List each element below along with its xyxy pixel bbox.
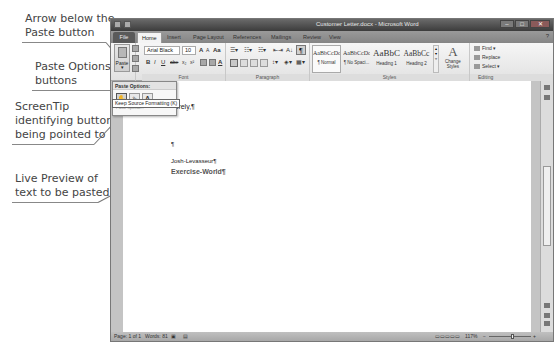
zoom-out-button[interactable]: − xyxy=(483,332,486,341)
align-right-button[interactable] xyxy=(250,59,258,67)
scroll-down-button[interactable] xyxy=(544,303,550,308)
vertical-scrollbar[interactable] xyxy=(540,81,553,334)
copy-icon[interactable] xyxy=(132,55,139,62)
page-count[interactable]: Page: 1 of 1 xyxy=(114,332,141,341)
font-color-button[interactable]: A xyxy=(218,58,222,67)
style-normal[interactable]: AaBbCcDc ¶ Normal xyxy=(312,45,341,73)
change-styles-icon: A xyxy=(442,45,464,59)
callout-text: text to be pasted xyxy=(15,186,115,200)
paste-arrow-button[interactable]: ▾ xyxy=(115,64,129,70)
line-spacing-button[interactable]: ↕▾ xyxy=(272,58,278,67)
word-logo-icon[interactable] xyxy=(114,21,121,28)
callout-underline xyxy=(22,42,106,43)
indent-buttons[interactable]: ⇤⇥ xyxy=(273,46,283,55)
document-area: cerely,¶ ¶ Josh-Levasseur¶ Exercise-Worl… xyxy=(111,81,542,334)
editing-group-label: Editing xyxy=(470,74,554,81)
minimize-button[interactable]: – xyxy=(500,20,514,28)
close-button[interactable]: ✕ xyxy=(530,20,550,28)
justify-button[interactable] xyxy=(260,59,268,67)
quick-access-toolbar xyxy=(114,21,131,28)
format-painter-icon[interactable] xyxy=(132,65,139,72)
subscript-button[interactable]: x₂ xyxy=(182,58,186,67)
figure: Arrow below the Paste button Paste Optio… xyxy=(0,0,554,349)
style-name: ¶ No Spaci... xyxy=(343,60,370,65)
styles-gallery-scroll[interactable]: ▴▾▿ xyxy=(433,45,439,73)
show-hide-button[interactable]: ¶ xyxy=(296,45,306,55)
style-heading-1[interactable]: AaBbC: Heading 1 xyxy=(372,45,401,73)
shrink-font-button[interactable]: A xyxy=(206,46,209,55)
scroll-up-button[interactable] xyxy=(544,95,550,100)
replace-label: Replace xyxy=(482,54,500,60)
tab-file[interactable]: File xyxy=(113,32,135,43)
shading-button[interactable]: ◈▾ xyxy=(284,58,292,67)
tab-page-layout[interactable]: Page Layout xyxy=(189,32,228,43)
styles-group-label: Styles xyxy=(310,74,469,81)
change-case-button[interactable]: Aa xyxy=(213,46,221,55)
style-name: ¶ Normal xyxy=(313,60,340,65)
clipboard-group: Paste ▾ xyxy=(111,43,136,81)
view-buttons[interactable]: ▭▭▭▭▭ xyxy=(435,332,460,341)
word-count[interactable]: Words: 81 xyxy=(145,332,168,341)
paste-button[interactable]: Paste ▾ xyxy=(114,44,130,72)
select-icon xyxy=(474,64,480,69)
title-bar: Customer Letter.docx - Microsoft Word – … xyxy=(111,19,553,31)
styles-group: AaBbCcDc ¶ Normal AaBbCcDc ¶ No Spaci...… xyxy=(310,43,470,81)
replace-icon xyxy=(474,55,480,60)
sort-button[interactable]: A↓ xyxy=(286,46,293,55)
tab-view[interactable]: View xyxy=(325,32,345,43)
change-styles-button[interactable]: A Change Styles xyxy=(442,45,464,73)
select-button[interactable]: Select ▾ xyxy=(474,63,500,69)
callout-text: buttons xyxy=(35,74,115,88)
multilevel-list-button[interactable]: ☵▾ xyxy=(258,46,266,55)
zoom-slider-knob[interactable] xyxy=(511,334,514,339)
zoom-level[interactable]: 117% xyxy=(465,332,477,341)
tab-insert[interactable]: Insert xyxy=(163,32,185,43)
align-center-button[interactable] xyxy=(240,59,248,67)
change-styles-label: Change Styles xyxy=(442,59,464,69)
clipboard-icon xyxy=(118,47,127,58)
doc-line-name: Josh-Levasseur¶ xyxy=(171,158,217,164)
tab-home[interactable]: Home xyxy=(137,32,162,43)
doc-line-pilcrow: ¶ xyxy=(171,141,174,147)
highlight-icon[interactable] xyxy=(209,59,216,66)
next-page-button[interactable] xyxy=(544,321,550,326)
prev-page-button[interactable] xyxy=(544,313,550,318)
style-no-spacing[interactable]: AaBbCcDc ¶ No Spaci... xyxy=(342,45,371,73)
proofing-icon[interactable]: ▣ xyxy=(171,332,176,341)
callout-text: Arrow below the xyxy=(25,12,115,26)
italic-button[interactable]: I xyxy=(154,58,156,67)
callout-underline xyxy=(32,90,116,91)
save-icon[interactable] xyxy=(124,21,131,28)
maximize-button[interactable]: □ xyxy=(515,20,529,28)
cut-icon[interactable] xyxy=(132,45,139,52)
numbering-button[interactable]: ☷▾ xyxy=(244,46,252,55)
zoom-in-button[interactable]: + xyxy=(533,332,536,341)
help-icon[interactable]: ? xyxy=(546,33,549,39)
zoom-slider[interactable] xyxy=(489,336,531,337)
strikethrough-button[interactable]: abe xyxy=(170,58,178,67)
scrollbar-thumb[interactable] xyxy=(543,166,551,246)
superscript-button[interactable]: x² xyxy=(190,58,194,67)
underline-button[interactable]: U xyxy=(161,58,165,67)
bullets-button[interactable]: ☰▾ xyxy=(230,46,238,55)
editing-group: Find ▾ Replace Select ▾ Editing xyxy=(470,43,554,81)
document-page[interactable]: cerely,¶ ¶ Josh-Levasseur¶ Exercise-Worl… xyxy=(123,81,531,334)
font-size-combo[interactable]: 10 xyxy=(182,46,196,55)
style-sample: AaBbCc xyxy=(403,49,430,58)
tab-references[interactable]: References xyxy=(229,32,265,43)
paragraph-group: ☰▾ ☷▾ ☵▾ ⇤⇥ A↓ ¶ ↕▾ ◈▾ ▦▾ Paragraph xyxy=(226,43,310,81)
style-name: Heading 2 xyxy=(403,61,430,66)
tab-review[interactable]: Review xyxy=(299,32,325,43)
tab-mailings[interactable]: Mailings xyxy=(267,32,295,43)
style-heading-2[interactable]: AaBbCc Heading 2 xyxy=(402,45,431,73)
font-name-combo[interactable]: Arial Black xyxy=(144,46,180,55)
find-button[interactable]: Find ▾ xyxy=(474,45,496,51)
borders-button[interactable]: ▦▾ xyxy=(296,58,305,67)
macro-icon[interactable]: ▤ xyxy=(183,332,188,341)
text-effects-icon[interactable] xyxy=(200,59,207,66)
bold-button[interactable]: B xyxy=(146,58,150,67)
align-left-button[interactable] xyxy=(230,59,238,67)
grow-font-button[interactable]: A xyxy=(199,46,203,55)
replace-button[interactable]: Replace xyxy=(474,54,500,60)
ruler-toggle-icon[interactable] xyxy=(544,85,550,90)
